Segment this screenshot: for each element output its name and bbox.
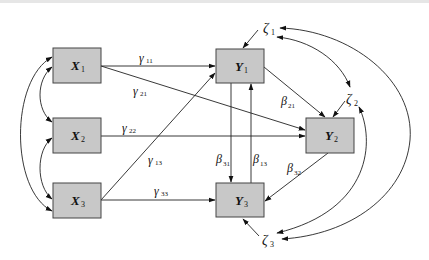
label-b31: β 31 — [215, 152, 231, 168]
path-b32 — [265, 153, 328, 201]
svg-text:γ: γ — [133, 84, 138, 98]
node-x3-label: X — [70, 193, 80, 208]
svg-text:13: 13 — [260, 160, 268, 168]
svg-text:2: 2 — [334, 135, 338, 144]
svg-text:1: 1 — [81, 65, 85, 74]
node-y1: Y 1 — [216, 49, 264, 83]
svg-text:ζ: ζ — [262, 233, 269, 248]
path-z2-y2 — [333, 101, 345, 117]
svg-text:21: 21 — [140, 90, 148, 98]
svg-text:1: 1 — [244, 66, 248, 75]
label-g33: γ 33 — [154, 184, 169, 198]
label-b21: β 21 — [280, 94, 296, 110]
svg-text:γ: γ — [122, 121, 127, 135]
svg-text:β: β — [252, 152, 259, 166]
path-z3-y3 — [243, 219, 259, 236]
node-y2: Y 2 — [306, 118, 354, 153]
svg-text:ζ: ζ — [263, 21, 270, 36]
svg-text:β: β — [215, 152, 222, 166]
node-y2-label: Y — [325, 128, 334, 143]
svg-text:2: 2 — [81, 135, 85, 144]
label-z1: ζ 1 — [263, 21, 275, 37]
label-b32: β 32 — [286, 161, 302, 177]
node-x2: X 2 — [53, 118, 101, 153]
svg-text:γ: γ — [139, 51, 144, 65]
path-z1-y1 — [243, 30, 258, 48]
svg-text:21: 21 — [288, 102, 296, 110]
cov-z1-z2-arc — [277, 37, 350, 87]
svg-text:33: 33 — [161, 190, 169, 198]
svg-text:31: 31 — [223, 160, 231, 168]
cov-x2-x3-arc — [40, 138, 52, 199]
label-z3: ζ 3 — [262, 233, 274, 249]
svg-text:β: β — [286, 161, 293, 175]
node-x1-label: X — [70, 58, 80, 73]
path-diagram: X 1 X 2 X 3 Y 1 Y 2 Y 3 γ 11 γ 21 γ 22 γ — [0, 0, 429, 260]
node-y1-label: Y — [235, 59, 244, 74]
svg-text:22: 22 — [129, 127, 137, 135]
svg-text:3: 3 — [244, 200, 248, 209]
svg-text:γ: γ — [148, 153, 153, 167]
svg-text:11: 11 — [146, 57, 153, 65]
svg-text:γ: γ — [154, 184, 159, 198]
node-x3: X 3 — [53, 183, 101, 218]
label-g13: γ 13 — [148, 153, 163, 167]
svg-text:1: 1 — [271, 28, 275, 37]
label-g21: γ 21 — [133, 84, 148, 98]
svg-text:3: 3 — [270, 240, 274, 249]
svg-text:13: 13 — [155, 159, 163, 167]
node-y3-label: Y — [235, 193, 244, 208]
path-g13 — [101, 73, 215, 200]
label-g22: γ 22 — [122, 121, 137, 135]
svg-text:ζ: ζ — [346, 92, 353, 107]
svg-text:2: 2 — [354, 99, 358, 108]
node-x2-label: X — [70, 128, 80, 143]
svg-text:3: 3 — [81, 200, 85, 209]
label-b13: β 13 — [252, 152, 268, 168]
cov-x1-x2-arc — [40, 67, 52, 122]
label-z2: ζ 2 — [346, 92, 358, 108]
svg-text:β: β — [280, 94, 287, 108]
node-y3: Y 3 — [216, 183, 264, 217]
node-x1: X 1 — [53, 48, 101, 83]
cov-x1-x3-arc — [21, 57, 53, 211]
label-g11: γ 11 — [139, 51, 153, 65]
svg-text:32: 32 — [294, 169, 302, 177]
